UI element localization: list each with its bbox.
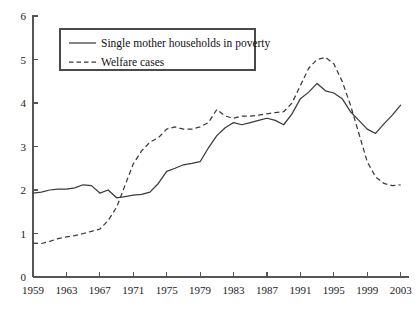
x-tick-label: 1971 — [122, 284, 144, 296]
x-tick-label: 2003 — [390, 284, 413, 296]
x-tick-label: 1987 — [256, 284, 279, 296]
x-tick-label: 1991 — [289, 284, 311, 296]
legend-label: Single mother households in poverty — [101, 37, 271, 50]
y-tick-label: 2 — [21, 184, 27, 196]
x-tick-label: 1999 — [356, 284, 379, 296]
series-line-dashed — [33, 57, 401, 243]
x-tick-label: 1979 — [189, 284, 212, 296]
x-tick-label: 1963 — [55, 284, 78, 296]
y-tick-label: 6 — [21, 10, 27, 22]
chart-legend: Single mother households in povertyWelfa… — [60, 29, 271, 70]
x-axis-ticks: 1959196319671971197519791983198719911995… — [22, 272, 412, 296]
y-tick-label: 0 — [21, 271, 27, 283]
legend-label: Welfare cases — [101, 56, 165, 68]
x-tick-label: 1959 — [22, 284, 45, 296]
y-tick-label: 1 — [21, 228, 27, 240]
x-tick-label: 1995 — [323, 284, 346, 296]
y-axis-ticks: 0123456 — [21, 10, 39, 283]
x-tick-label: 1983 — [223, 284, 246, 296]
x-tick-label: 1975 — [156, 284, 179, 296]
line-chart: 0123456 19591963196719711975197919831987… — [0, 0, 420, 314]
series-line-solid — [33, 83, 401, 197]
y-tick-label: 5 — [21, 54, 27, 66]
y-tick-label: 3 — [21, 141, 27, 153]
chart-container: 0123456 19591963196719711975197919831987… — [0, 0, 420, 314]
data-series-group — [33, 57, 401, 243]
x-tick-label: 1967 — [89, 284, 112, 296]
y-tick-label: 4 — [21, 97, 27, 109]
